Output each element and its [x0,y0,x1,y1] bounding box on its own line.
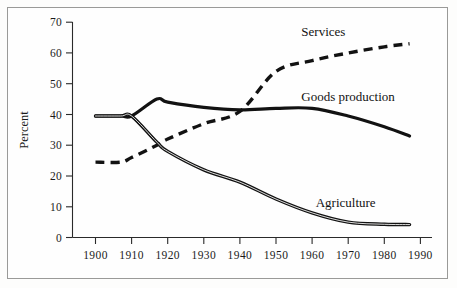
y-tick-labels: 0 10 20 30 40 50 60 70 [50,16,62,243]
y-tick-label-40: 40 [50,109,62,121]
series-line-goods-production [96,98,410,136]
x-tick-marks [96,238,421,245]
x-tick-label-1920: 1920 [155,249,180,261]
y-axis-title: Percent [17,111,31,149]
x-tick-label-1900: 1900 [83,249,108,261]
x-tick-label-1970: 1970 [336,249,361,261]
x-tick-label-1960: 1960 [300,249,325,261]
x-tick-label-1980: 1980 [372,249,397,261]
x-tick-label-1950: 1950 [264,249,289,261]
x-tick-label-1940: 1940 [228,249,253,261]
y-tick-label-70: 70 [50,16,62,28]
series-label-goods-production: Goods production [301,89,395,104]
x-tick-labels: 1900 1910 1920 1930 1940 1950 1960 1970 … [83,249,433,261]
y-tick-label-20: 20 [50,170,62,182]
line-chart-plot: 0 10 20 30 40 50 60 70 Percent 1900 [0,0,457,288]
x-tick-label-1930: 1930 [191,249,216,261]
x-tick-label-1910: 1910 [119,249,144,261]
y-tick-marks [66,22,73,237]
y-tick-label-30: 30 [50,139,62,151]
axes-group [73,22,433,238]
y-tick-label-50: 50 [50,78,62,90]
series-label-agriculture: Agriculture [316,195,376,210]
x-tick-label-1990: 1990 [408,249,433,261]
y-tick-label-10: 10 [50,201,62,213]
chart-figure: 0 10 20 30 40 50 60 70 Percent 1900 [0,0,457,288]
y-tick-label-60: 60 [50,47,62,59]
y-tick-label-0: 0 [56,232,62,244]
series-label-services: Services [301,24,345,39]
